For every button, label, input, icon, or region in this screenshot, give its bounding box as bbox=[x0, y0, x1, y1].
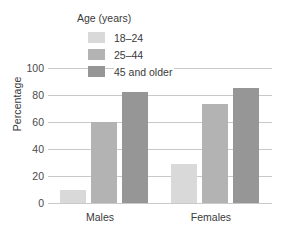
bar-females-25-44 bbox=[202, 104, 228, 203]
legend-swatch-icon bbox=[88, 32, 105, 43]
bar-females-45-and-older bbox=[233, 88, 259, 203]
bar-males-18-24 bbox=[60, 190, 86, 204]
plot-area bbox=[48, 68, 272, 203]
legend-item-label: 25–44 bbox=[114, 49, 145, 61]
y-tick-0: 0 bbox=[18, 198, 44, 209]
x-axis-tick-label-females: Females bbox=[171, 211, 251, 223]
legend-item: 25–44 bbox=[88, 46, 207, 63]
bar-males-45-and-older bbox=[122, 92, 148, 203]
y-tick-20: 20 bbox=[18, 171, 44, 182]
bar-females-18-24 bbox=[171, 164, 197, 203]
x-axis-tick-label-males: Males bbox=[60, 211, 140, 223]
bar-males-25-44 bbox=[91, 122, 117, 203]
legend-items: 18–2425–4445 and older bbox=[77, 29, 207, 80]
legend-item-label: 45 and older bbox=[114, 66, 174, 78]
bar-group-males bbox=[60, 68, 148, 203]
legend-item: 45 and older bbox=[88, 63, 207, 80]
bar-group-females bbox=[171, 68, 259, 203]
legend-swatch-icon bbox=[88, 66, 105, 77]
bar-chart: 100806040200 Percentage Males Females Ag… bbox=[0, 0, 285, 239]
gridline-0 bbox=[48, 203, 272, 204]
legend-item-label: 18–24 bbox=[114, 32, 145, 44]
legend-title: Age (years) bbox=[77, 12, 131, 24]
legend: Age (years) 18–2425–4445 and older bbox=[77, 8, 207, 80]
legend-item: 18–24 bbox=[88, 29, 207, 46]
y-axis-title: Percentage bbox=[11, 59, 23, 149]
legend-swatch-icon bbox=[88, 49, 105, 60]
